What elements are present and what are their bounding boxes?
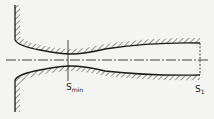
- top-wall: [15, 5, 200, 54]
- throat-label: Smin: [66, 83, 83, 93]
- bottom-wall: [15, 66, 200, 112]
- nozzle-diagram: [0, 0, 214, 119]
- exit-label: S1: [195, 85, 205, 95]
